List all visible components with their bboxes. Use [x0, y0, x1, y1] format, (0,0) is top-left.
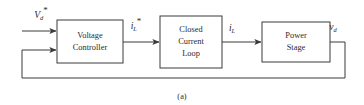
voltage-controller-label-line1: Voltage	[77, 31, 103, 40]
voltage-controller-label-line2: Controller	[73, 43, 108, 52]
reference-inductor-current-subscript: L	[132, 25, 137, 32]
power-stage-label-line2: Stage	[287, 43, 306, 52]
signal-label-inductor-current: iL	[229, 22, 236, 34]
svg-text:Vd*: Vd*	[34, 5, 48, 21]
signal-label-reference-voltage: Vd*	[34, 5, 48, 21]
svg-text:iL*: iL*	[131, 16, 142, 32]
closed-current-loop-label-line3: Loop	[182, 49, 200, 58]
reference-voltage-star: *	[43, 5, 48, 15]
block-diagram-figure: Voltage Controller Closed Current Loop P…	[0, 0, 364, 105]
svg-text:iL: iL	[229, 22, 236, 34]
closed-current-loop-label-line2: Current	[178, 37, 204, 46]
closed-current-loop-label-line1: Closed	[179, 25, 203, 34]
figure-caption: (a)	[177, 92, 187, 101]
reference-voltage-subscript: d	[40, 14, 44, 21]
block-diagram-canvas: Voltage Controller Closed Current Loop P…	[0, 0, 364, 105]
inductor-current-subscript: L	[231, 27, 236, 34]
signal-label-output-voltage: vd	[329, 21, 337, 33]
output-voltage-subscript: d	[334, 26, 338, 33]
power-stage-label-line1: Power	[285, 31, 307, 40]
block-voltage-controller	[57, 20, 123, 63]
svg-text:vd: vd	[329, 21, 337, 33]
signal-label-reference-inductor-current: iL*	[131, 16, 142, 32]
reference-inductor-current-star: *	[137, 16, 142, 26]
